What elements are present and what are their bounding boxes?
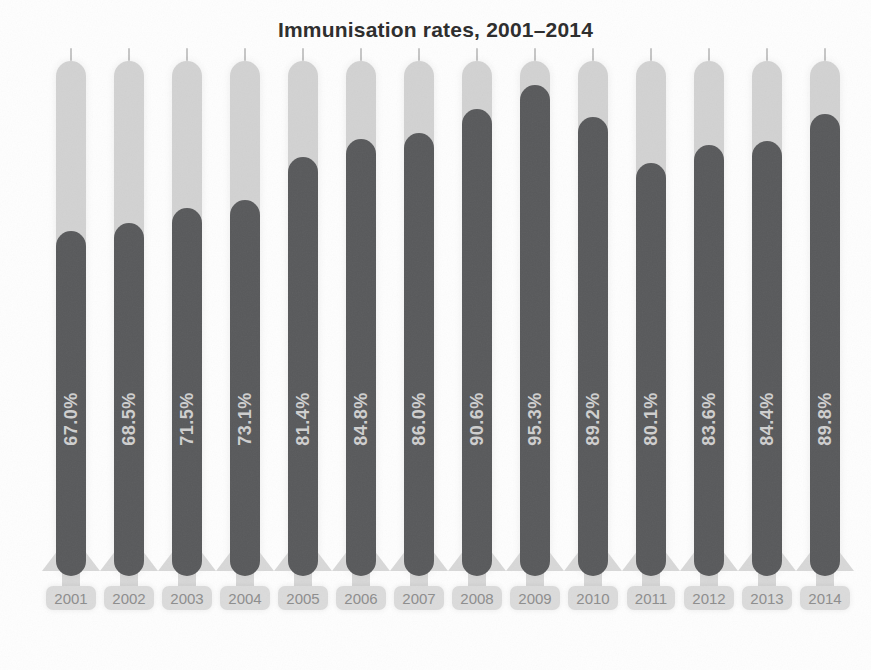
tick-mark [650,48,652,61]
bar-column: 80.1%2011 [622,48,680,610]
tick-mark [128,48,130,61]
bar-column: 89.2%2010 [564,48,622,610]
tick-mark [476,48,478,61]
bar-column: 83.6%2012 [680,48,738,610]
bar-column: 90.6%2008 [448,48,506,610]
bar-chart: 67.0%200168.5%200271.5%200373.1%200481.4… [42,48,871,610]
tick-mark [302,48,304,61]
bar-track: 89.8% [810,61,840,576]
year-label: 2012 [684,586,733,610]
tick-mark [360,48,362,61]
year-label: 2008 [452,586,501,610]
bar-track: 86.0% [404,61,434,576]
tick-mark [708,48,710,61]
bar-track: 73.1% [230,61,260,576]
bar-fill [404,133,434,576]
value-label: 71.5% [177,392,198,446]
year-label: 2006 [336,586,385,610]
bar-fill [810,114,840,576]
chart-title: Immunisation rates, 2001–2014 [0,0,871,42]
bar-fill [230,200,260,576]
bar-fill [462,109,492,576]
value-label: 81.4% [293,392,314,446]
value-label: 90.6% [467,392,488,446]
bar-column: 67.0%2001 [42,48,100,610]
tick-mark [70,48,72,61]
bar-track: 71.5% [172,61,202,576]
bar-column: 95.3%2009 [506,48,564,610]
year-label: 2003 [162,586,211,610]
bar-track: 95.3% [520,61,550,576]
bar-track: 67.0% [56,61,86,576]
bar-fill [578,117,608,576]
year-label: 2004 [220,586,269,610]
bar-column: 89.8%2014 [796,48,854,610]
tick-mark [418,48,420,61]
bar-fill [520,85,550,576]
bar-track: 83.6% [694,61,724,576]
year-label: 2009 [510,586,559,610]
year-label: 2007 [394,586,443,610]
tick-mark [534,48,536,61]
value-label: 80.1% [641,392,662,446]
bar-column: 84.8%2006 [332,48,390,610]
bar-column: 68.5%2002 [100,48,158,610]
bar-fill [288,157,318,576]
year-label: 2002 [104,586,153,610]
bar-track: 81.4% [288,61,318,576]
value-label: 83.6% [699,392,720,446]
bar-track: 84.4% [752,61,782,576]
year-label: 2010 [568,586,617,610]
bar-fill [346,139,376,576]
tick-mark [824,48,826,61]
tick-mark [186,48,188,61]
bar-column: 81.4%2005 [274,48,332,610]
year-label: 2013 [742,586,791,610]
value-label: 95.3% [525,392,546,446]
chart-page: Immunisation rates, 2001–2014 67.0%20016… [0,0,871,670]
value-label: 84.8% [351,392,372,446]
bar-track: 89.2% [578,61,608,576]
tick-mark [244,48,246,61]
bar-track: 84.8% [346,61,376,576]
year-label: 2014 [800,586,849,610]
bar-fill [636,163,666,576]
value-label: 73.1% [235,392,256,446]
tick-mark [766,48,768,61]
bar-fill [694,145,724,576]
bar-column: 73.1%2004 [216,48,274,610]
bar-track: 80.1% [636,61,666,576]
bar-track: 90.6% [462,61,492,576]
value-label: 67.0% [61,392,82,446]
tick-mark [592,48,594,61]
year-label: 2011 [627,586,675,610]
bar-track: 68.5% [114,61,144,576]
value-label: 86.0% [409,392,430,446]
value-label: 89.2% [583,392,604,446]
year-label: 2001 [46,586,95,610]
bar-column: 71.5%2003 [158,48,216,610]
value-label: 84.4% [757,392,778,446]
bar-column: 86.0%2007 [390,48,448,610]
bar-fill [752,141,782,576]
value-label: 89.8% [815,392,836,446]
bar-column: 84.4%2013 [738,48,796,610]
year-label: 2005 [278,586,327,610]
value-label: 68.5% [119,392,140,446]
